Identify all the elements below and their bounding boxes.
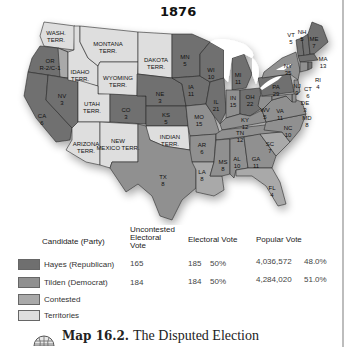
hayes-uncontested: 165 — [130, 259, 143, 268]
svg-text:TERR.: TERR. — [99, 48, 117, 54]
svg-text:TERR.: TERR. — [71, 76, 89, 82]
tilden-electoral: 184 — [188, 277, 201, 286]
tilden-uncontested: 184 — [130, 278, 143, 287]
svg-text:8: 8 — [305, 122, 309, 128]
svg-text:KS: KS — [162, 112, 170, 118]
svg-text:VA: VA — [276, 108, 284, 114]
header-electoral-vote: Electoral Vote — [188, 236, 237, 244]
legend-row-contested: Contested — [18, 292, 80, 306]
svg-text:NE: NE — [156, 91, 164, 97]
svg-text:UTAH: UTAH — [84, 101, 100, 107]
svg-text:MO: MO — [194, 114, 204, 120]
svg-text:15: 15 — [230, 102, 237, 108]
swatch-territories — [18, 310, 40, 321]
header-uncontested: Uncontested Electoral Vote — [130, 226, 175, 250]
svg-text:11: 11 — [188, 91, 195, 97]
svg-text:CA: CA — [38, 113, 46, 119]
svg-text:TERR.: TERR. — [161, 141, 179, 147]
svg-text:WASH.: WASH. — [46, 30, 66, 36]
header-candidate: Candidate (Party) — [42, 238, 105, 246]
svg-text:11: 11 — [253, 163, 260, 169]
svg-text:TX: TX — [159, 174, 167, 180]
svg-text:RI: RI — [315, 77, 321, 83]
svg-text:TERR.: TERR. — [77, 148, 95, 154]
svg-text:3: 3 — [303, 107, 307, 113]
svg-text:IN: IN — [230, 95, 236, 101]
svg-text:NV: NV — [58, 93, 66, 99]
svg-text:ARIZONA: ARIZONA — [73, 141, 100, 147]
swatch-contested — [18, 294, 40, 305]
swatch-tilden — [18, 277, 40, 288]
svg-text:SC: SC — [266, 141, 275, 147]
svg-text:10: 10 — [285, 132, 292, 138]
svg-text:IDAHO: IDAHO — [70, 69, 89, 75]
legend-row-territories: Territories — [18, 308, 79, 322]
globe-icon — [32, 326, 56, 346]
svg-text:10: 10 — [234, 163, 241, 169]
region-fl — [236, 168, 286, 206]
svg-text:ME: ME — [310, 36, 319, 42]
svg-text:NC: NC — [284, 125, 293, 131]
svg-text:12: 12 — [237, 137, 244, 143]
svg-text:11: 11 — [277, 115, 284, 121]
svg-text:DE: DE — [301, 100, 309, 106]
svg-text:NEW: NEW — [111, 138, 125, 144]
svg-text:PA: PA — [272, 84, 280, 90]
svg-text:FL: FL — [268, 185, 276, 191]
svg-text:5: 5 — [289, 39, 293, 45]
svg-text:DAKOTA: DAKOTA — [144, 57, 168, 63]
svg-text:MEXICO TERR.: MEXICO TERR. — [96, 145, 140, 151]
svg-text:R-2/C-1: R-2/C-1 — [39, 65, 61, 71]
svg-text:NY: NY — [284, 63, 292, 69]
svg-text:35: 35 — [285, 70, 292, 76]
tilden-electoral-pct: 50% — [210, 277, 226, 286]
svg-text:INDIAN: INDIAN — [160, 134, 180, 140]
svg-text:WYOMING: WYOMING — [103, 75, 133, 81]
svg-text:WV: WV — [260, 107, 270, 113]
svg-text:MN: MN — [180, 54, 189, 60]
svg-text:TERR.: TERR. — [47, 37, 65, 43]
svg-text:13: 13 — [320, 63, 327, 69]
svg-text:IA: IA — [188, 84, 194, 90]
svg-text:11: 11 — [235, 79, 242, 85]
page-margin-rule — [342, 0, 344, 347]
svg-text:MI: MI — [235, 72, 242, 78]
svg-text:AL: AL — [233, 156, 241, 162]
svg-text:21: 21 — [213, 106, 220, 112]
region-ct — [300, 62, 308, 72]
caption-number: Map 16.2. — [62, 329, 129, 343]
svg-text:TN: TN — [236, 130, 244, 136]
caption-title: The Disputed Election — [133, 328, 259, 344]
svg-text:4: 4 — [316, 84, 320, 90]
svg-text:OR: OR — [46, 58, 56, 64]
tilden-popular-pct: 51.0% — [304, 275, 327, 284]
svg-text:KY: KY — [241, 117, 249, 123]
svg-text:6: 6 — [306, 93, 310, 99]
svg-text:CO: CO — [122, 107, 131, 113]
legend-row-hayes: Hayes (Republican) — [18, 257, 114, 271]
svg-text:WI: WI — [207, 67, 215, 73]
svg-text:MS: MS — [219, 159, 228, 165]
svg-text:NJ: NJ — [293, 83, 300, 89]
region-ri — [308, 62, 312, 70]
svg-text:NH: NH — [298, 29, 307, 35]
region-wash-terr — [40, 22, 75, 50]
svg-text:10: 10 — [208, 74, 215, 80]
tilden-popular: 4,284,020 — [256, 275, 292, 284]
svg-text:VT: VT — [287, 32, 295, 38]
svg-text:IL: IL — [213, 99, 219, 105]
hayes-electoral: 185 — [188, 259, 201, 268]
region-dakota-terr — [138, 32, 172, 78]
svg-text:TERR.: TERR. — [109, 82, 127, 88]
svg-text:MA: MA — [319, 56, 328, 62]
svg-text:29: 29 — [273, 91, 280, 97]
legend-row-tilden: Tilden (Democrat) — [18, 275, 108, 289]
svg-text:GA: GA — [252, 156, 261, 162]
region-or-contested-strip — [58, 48, 68, 78]
region-ar — [190, 134, 216, 162]
hayes-popular: 4,036,572 — [256, 257, 292, 266]
election-map-1876: WASH.TERR. MONTANATERR. DAKOTATERR. IDAH… — [0, 0, 342, 225]
swatch-hayes — [18, 259, 40, 270]
svg-text:CT: CT — [304, 86, 312, 92]
map-caption: Map 16.2. The Disputed Election — [32, 326, 259, 346]
